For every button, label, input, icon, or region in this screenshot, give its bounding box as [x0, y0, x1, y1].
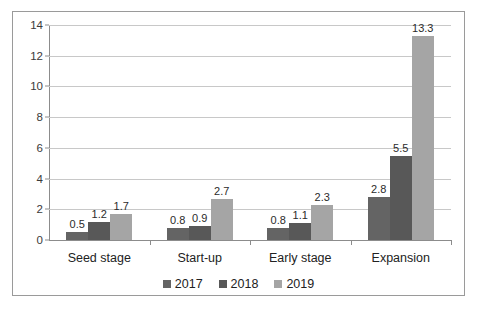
- bar-2019-3[interactable]: 13.3: [412, 36, 434, 240]
- bar-2017-0[interactable]: 0.5: [66, 232, 88, 240]
- legend-swatch-icon-2019: [274, 280, 282, 288]
- x-axis-separator-1: [150, 240, 151, 245]
- category-group-1: 0.80.92.7Start-up: [150, 25, 251, 240]
- legend-label-2017: 2017: [175, 277, 203, 291]
- bar-fill: [311, 205, 333, 240]
- bar-value-label: 5.5: [393, 142, 408, 154]
- legend-label-2019: 2019: [286, 277, 314, 291]
- bar-2019-1[interactable]: 2.7: [211, 199, 233, 240]
- bar-fill: [211, 199, 233, 240]
- bar-value-label: 13.3: [412, 22, 433, 34]
- bar-2018-1[interactable]: 0.9: [189, 226, 211, 240]
- legend-item-2018[interactable]: 2018: [219, 277, 259, 291]
- legend-swatch-icon-2017: [163, 280, 171, 288]
- x-category-label-0: Seed stage: [49, 251, 150, 265]
- legend-item-2019[interactable]: 2019: [274, 277, 314, 291]
- bar-fill: [110, 214, 132, 240]
- bar-value-label: 0.8: [170, 214, 185, 226]
- bar-2018-0[interactable]: 1.2: [88, 222, 110, 240]
- bar-value-label: 2.7: [214, 185, 229, 197]
- legend-item-2017[interactable]: 2017: [163, 277, 203, 291]
- bar-2018-3[interactable]: 5.5: [390, 156, 412, 240]
- x-category-label-2: Early stage: [250, 251, 351, 265]
- x-axis-separator-3: [351, 240, 352, 245]
- bar-value-label: 2.3: [315, 191, 330, 203]
- x-axis-separator-end: [451, 240, 452, 245]
- bar-fill: [88, 222, 110, 240]
- category-group-2: 0.81.12.3Early stage: [250, 25, 351, 240]
- bar-fill: [368, 197, 390, 240]
- bar-fill: [390, 156, 412, 240]
- bar-value-label: 1.2: [92, 208, 107, 220]
- bar-fill: [289, 223, 311, 240]
- legend-label-2018: 2018: [231, 277, 259, 291]
- bar-2017-2[interactable]: 0.8: [267, 228, 289, 240]
- x-category-label-1: Start-up: [150, 251, 251, 265]
- bar-2018-2[interactable]: 1.1: [289, 223, 311, 240]
- bar-fill: [267, 228, 289, 240]
- x-category-label-3: Expansion: [351, 251, 452, 265]
- chart-frame: 024681012140.51.21.7Seed stage0.80.92.7S…: [12, 11, 465, 296]
- bar-2017-1[interactable]: 0.8: [167, 228, 189, 240]
- chart-legend: 2017 2018 2019: [13, 277, 464, 291]
- bar-fill: [167, 228, 189, 240]
- x-axis-separator-2: [250, 240, 251, 245]
- plot-area: 024681012140.51.21.7Seed stage0.80.92.7S…: [49, 25, 451, 240]
- bar-value-label: 0.9: [192, 212, 207, 224]
- bar-value-label: 0.5: [70, 218, 85, 230]
- bar-2019-2[interactable]: 2.3: [311, 205, 333, 240]
- legend-swatch-icon-2018: [219, 280, 227, 288]
- category-group-0: 0.51.21.7Seed stage: [49, 25, 150, 240]
- category-group-3: 2.85.513.3Expansion: [351, 25, 452, 240]
- bar-value-label: 2.8: [371, 183, 386, 195]
- bar-fill: [412, 36, 434, 240]
- bar-fill: [66, 232, 88, 240]
- bar-2019-0[interactable]: 1.7: [110, 214, 132, 240]
- bar-value-label: 1.1: [293, 209, 308, 221]
- bar-value-label: 1.7: [114, 200, 129, 212]
- bar-2017-3[interactable]: 2.8: [368, 197, 390, 240]
- bar-fill: [189, 226, 211, 240]
- bar-value-label: 0.8: [271, 214, 286, 226]
